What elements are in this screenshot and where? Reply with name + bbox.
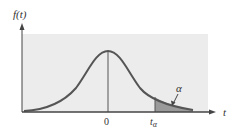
x-axis-arrow-icon	[209, 110, 216, 115]
alpha-label: α	[176, 82, 182, 94]
x-axis-label: t	[223, 106, 227, 118]
t-distribution-diagram: f(t) t 0 tα α	[0, 0, 237, 138]
y-axis-arrow-icon	[20, 23, 25, 30]
plot-panel	[22, 34, 208, 112]
critical-value-label: tα	[150, 116, 158, 129]
zero-tick-label: 0	[104, 116, 109, 127]
y-axis-label: f(t)	[13, 8, 27, 21]
